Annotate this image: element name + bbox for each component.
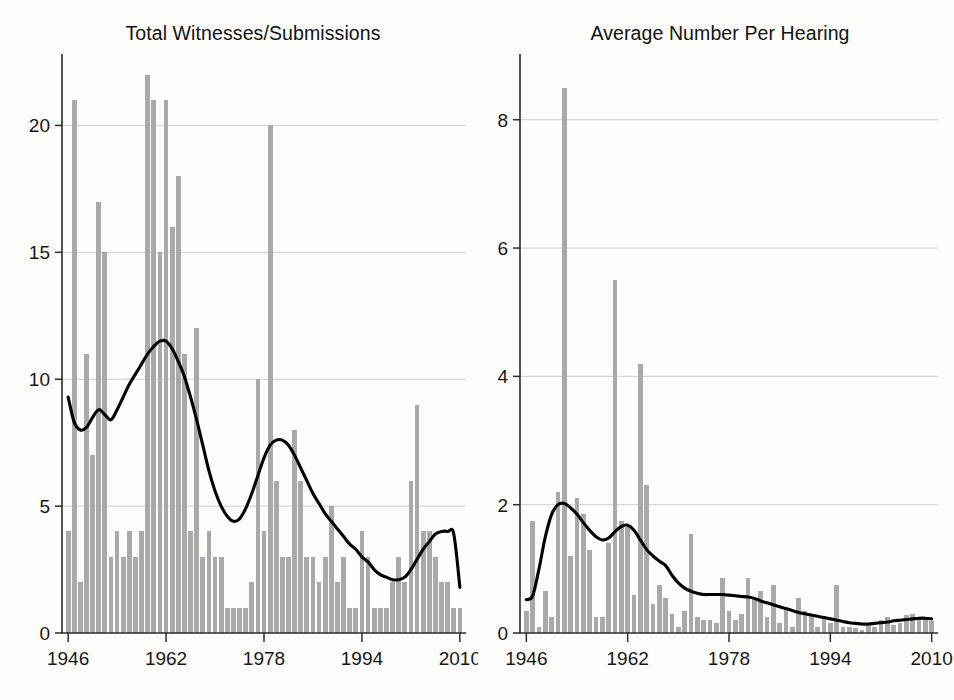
bar (670, 614, 675, 633)
bar (708, 620, 713, 633)
plot-area-left: 0510152019461962197819942010 (0, 0, 478, 700)
bar (676, 627, 681, 633)
x-tick-label: 2010 (439, 648, 478, 669)
bar (790, 627, 795, 633)
bar (170, 227, 175, 633)
bar (127, 531, 132, 633)
bar (733, 620, 738, 633)
bar (96, 202, 101, 633)
bar (866, 625, 871, 633)
bar (102, 252, 107, 633)
x-tick-label: 2010 (911, 648, 953, 669)
y-tick-label: 5 (39, 496, 50, 517)
bar (758, 591, 763, 633)
bar (207, 531, 212, 633)
bar (256, 379, 261, 633)
bar (115, 531, 120, 633)
bar (372, 608, 377, 633)
bar (72, 100, 77, 633)
bar (619, 521, 624, 633)
bar (225, 608, 230, 633)
bar (701, 620, 706, 633)
bar (695, 617, 700, 633)
y-tick-label: 20 (29, 115, 50, 136)
bar (262, 531, 267, 633)
bar (353, 608, 358, 633)
figure-container: Total Witnesses/Submissions 051015201946… (0, 0, 954, 700)
bar (549, 617, 554, 633)
bar (600, 617, 605, 633)
y-tick-label: 15 (29, 242, 50, 263)
bar (777, 623, 782, 633)
chart-panel-right: Average Number Per Hearing 0246819461962… (476, 0, 954, 700)
bar (530, 521, 535, 633)
plot-area-right: 0246819461962197819942010 (476, 0, 954, 700)
x-tick-label: 1994 (809, 648, 852, 669)
bar (249, 582, 254, 633)
x-tick-label: 1962 (145, 648, 187, 669)
bar (644, 485, 649, 633)
bar (182, 354, 187, 633)
bar (923, 619, 928, 633)
bar (158, 252, 163, 633)
bar (274, 481, 279, 633)
bar (90, 455, 95, 633)
bar (390, 582, 395, 633)
bar (396, 557, 401, 633)
bar (581, 514, 586, 633)
bar (625, 527, 630, 633)
bar (188, 531, 193, 633)
bar (237, 608, 242, 633)
bar (200, 557, 205, 633)
bar (847, 627, 852, 633)
bar (682, 611, 687, 633)
y-tick-label: 6 (497, 238, 508, 259)
bar (164, 100, 169, 633)
bar (771, 585, 776, 633)
bar (66, 531, 71, 633)
bar (409, 481, 414, 633)
trend-line (526, 503, 931, 624)
bar (746, 578, 751, 633)
bar (606, 543, 611, 633)
bar (78, 582, 83, 633)
bar (231, 608, 236, 633)
bar (815, 627, 820, 633)
x-tick-label: 1978 (243, 648, 285, 669)
bar (904, 615, 909, 633)
bar (298, 481, 303, 633)
bar (898, 623, 903, 633)
bar (613, 280, 618, 633)
y-tick-label: 10 (29, 369, 50, 390)
x-tick-label: 1962 (607, 648, 649, 669)
bar (268, 125, 273, 633)
bar (537, 627, 542, 633)
y-tick-label: 2 (497, 495, 508, 516)
bar (752, 598, 757, 633)
bar (543, 591, 548, 633)
bar (929, 621, 934, 633)
bar (151, 100, 156, 633)
bar (433, 557, 438, 633)
bar (632, 595, 637, 633)
bar (84, 354, 89, 633)
bar (910, 614, 915, 633)
y-tick-label: 0 (39, 623, 50, 644)
bar (415, 405, 420, 633)
y-tick-label: 4 (497, 366, 508, 387)
bar (841, 627, 846, 633)
bar (872, 627, 877, 633)
bar (784, 607, 789, 633)
x-tick-label: 1946 (47, 648, 89, 669)
bar (568, 556, 573, 633)
bar (556, 492, 561, 633)
bar (360, 531, 365, 633)
bar (341, 557, 346, 633)
bar (378, 608, 383, 633)
x-tick-label: 1946 (505, 648, 547, 669)
bar (139, 531, 144, 633)
bar (311, 557, 316, 633)
bar (524, 611, 529, 633)
bar (458, 608, 463, 633)
bar (335, 582, 340, 633)
